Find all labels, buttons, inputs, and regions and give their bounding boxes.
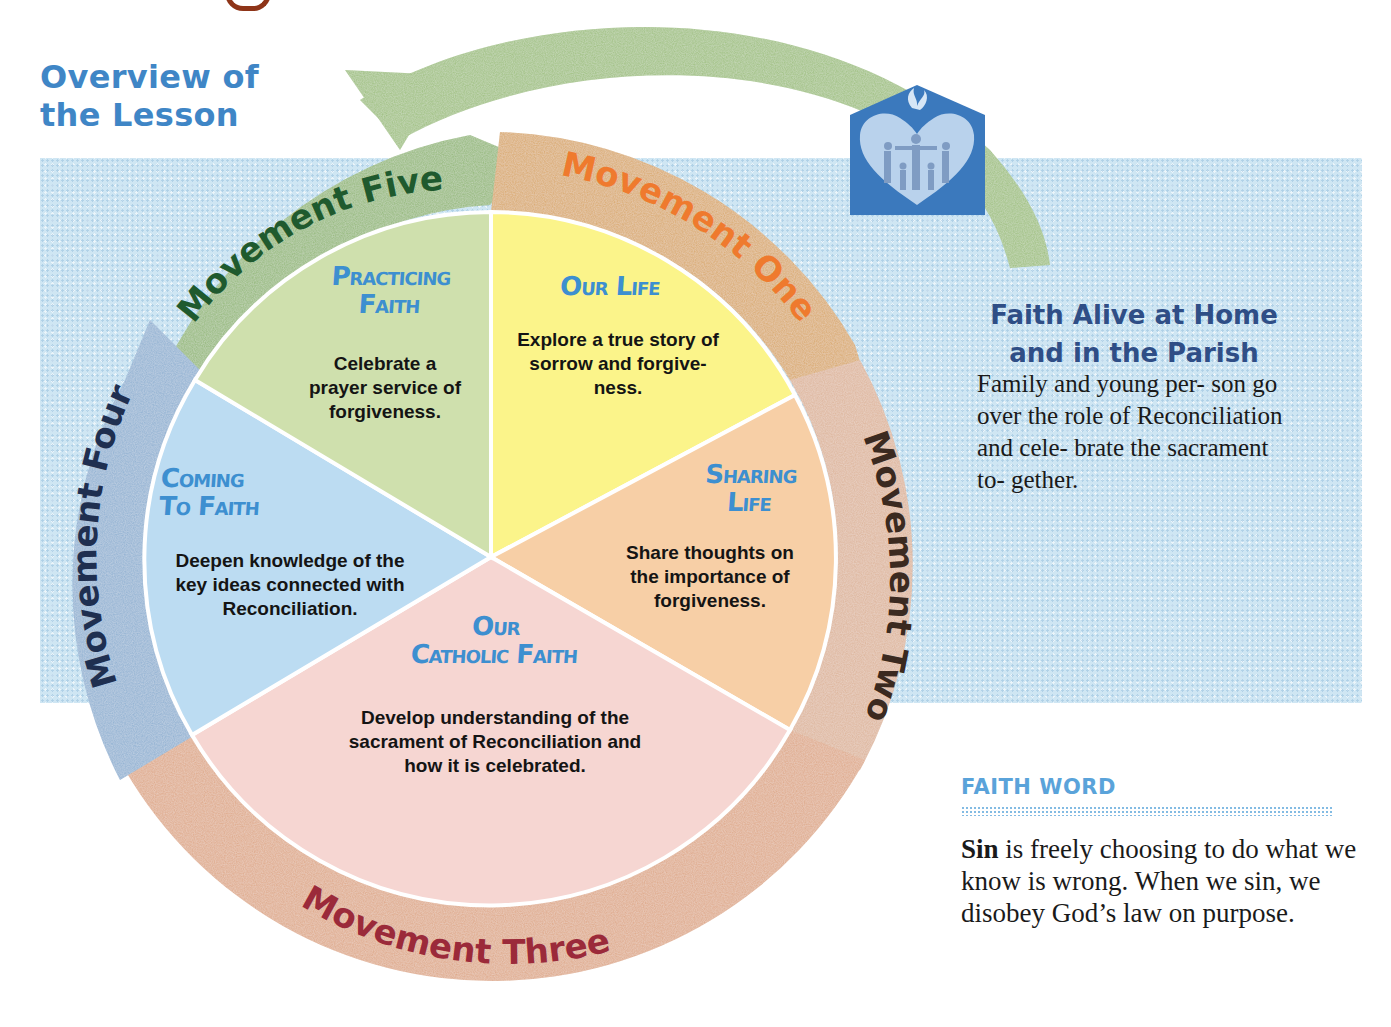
slice-title-line: Catholic Faith bbox=[368, 640, 620, 668]
faith-word-label: FAITH WORD bbox=[961, 775, 1116, 799]
faith-word-divider bbox=[961, 806, 1333, 816]
faith-alive-heading-line2: and in the Parish bbox=[972, 334, 1296, 372]
desc-line: Share thoughts on bbox=[590, 541, 830, 565]
slice-desc-coming-to-faith: Deepen knowledge of the key ideas connec… bbox=[140, 549, 440, 621]
faith-alive-heading: Faith Alive at Home and in the Parish bbox=[972, 296, 1296, 372]
faith-word-term: Sin bbox=[961, 834, 999, 864]
faith-word-definition: Sin is freely choosing to do what we kno… bbox=[961, 833, 1361, 929]
desc-line: key ideas connected with bbox=[140, 573, 440, 597]
slice-title-line: Sharing bbox=[670, 460, 832, 488]
slice-title-practicing-faith: Practicing Faith bbox=[298, 262, 482, 318]
slice-title-line: Our Life bbox=[519, 272, 701, 300]
slice-desc-sharing-life: Share thoughts on the importance of forg… bbox=[590, 541, 830, 613]
desc-line: the importance of bbox=[590, 565, 830, 589]
desc-line: Reconciliation. bbox=[140, 597, 440, 621]
slice-title-line: Coming bbox=[160, 464, 322, 492]
faith-alive-body: Family and young per- son go over the ro… bbox=[977, 368, 1297, 496]
slice-title-sharing-life: Sharing Life bbox=[668, 460, 832, 516]
slice-desc-our-life: Explore a true story of sorrow and forgi… bbox=[488, 328, 748, 400]
slice-title-our-life: Our Life bbox=[519, 272, 701, 300]
slice-title-line: Life bbox=[668, 488, 830, 516]
slice-title-line: Faith bbox=[298, 290, 480, 318]
desc-line: Celebrate a bbox=[285, 352, 485, 376]
desc-line: how it is celebrated. bbox=[300, 754, 690, 778]
desc-line: sorrow and forgive- bbox=[488, 352, 748, 376]
slice-title-line: To Faith bbox=[158, 492, 320, 520]
desc-line: forgiveness. bbox=[285, 400, 485, 424]
desc-line: forgiveness. bbox=[590, 589, 830, 613]
desc-line: Explore a true story of bbox=[488, 328, 748, 352]
desc-line: Develop understanding of the bbox=[300, 706, 690, 730]
desc-line: Deepen knowledge of the bbox=[140, 549, 440, 573]
slice-title-line: Practicing bbox=[300, 262, 482, 290]
desc-line: prayer service of bbox=[285, 376, 485, 400]
desc-line: ness. bbox=[488, 376, 748, 400]
desc-line: sacrament of Reconciliation and bbox=[300, 730, 690, 754]
faith-alive-heading-line1: Faith Alive at Home bbox=[972, 296, 1296, 334]
slice-desc-practicing-faith: Celebrate a prayer service of forgivenes… bbox=[285, 352, 485, 424]
faith-word-text: is freely choosing to do what we know is… bbox=[961, 834, 1356, 928]
slice-title-coming-to-faith: Coming To Faith bbox=[158, 464, 322, 520]
slice-desc-our-catholic-faith: Develop understanding of the sacrament o… bbox=[300, 706, 690, 778]
